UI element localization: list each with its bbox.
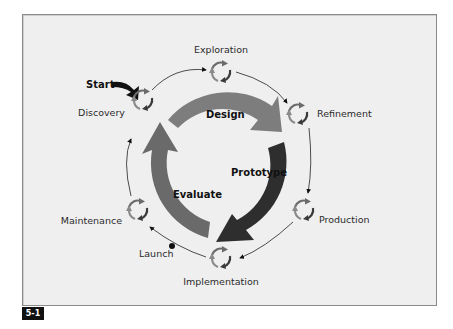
node-label: Discovery: [78, 107, 125, 118]
node-exploration: Exploration: [194, 44, 248, 83]
node-label: Production: [319, 214, 370, 225]
node-production: Production: [292, 198, 370, 225]
cycle-icon: [126, 198, 147, 221]
start-label: Start: [86, 79, 115, 90]
core-label-prototype: Prototype: [231, 167, 287, 178]
node-label: Maintenance: [61, 215, 122, 226]
connector-discovery-exploration: [152, 69, 206, 90]
connector-maintenance-discovery: [127, 139, 132, 196]
cycle-icon: [292, 198, 313, 221]
evaluate-arrow: [142, 122, 210, 238]
core-cycle: Design Prototype Evaluate: [142, 92, 287, 242]
prototype-arrow: [216, 142, 287, 242]
node-label: Exploration: [194, 44, 248, 55]
cycle-icon: [209, 60, 230, 83]
cycle-icon: [286, 102, 307, 125]
node-label: Implementation: [183, 276, 258, 287]
core-label-evaluate: Evaluate: [173, 189, 222, 200]
connector-refinement-production: [308, 128, 311, 193]
launch-label: Launch: [139, 248, 173, 259]
node-implementation: Implementation: [183, 246, 258, 287]
cycle-icon: [209, 246, 230, 269]
start-indicator: Start: [86, 79, 139, 100]
node-discovery: Discovery: [78, 88, 152, 118]
node-maintenance: Maintenance: [61, 198, 147, 226]
figure-number-badge: 5-1: [22, 307, 44, 320]
core-label-design: Design: [206, 109, 245, 120]
node-refinement: Refinement: [286, 102, 372, 125]
lifecycle-diagram: Design Prototype Evaluate Start Explorat…: [0, 0, 453, 329]
node-label: Refinement: [317, 108, 372, 119]
